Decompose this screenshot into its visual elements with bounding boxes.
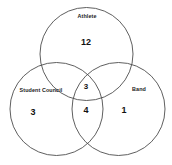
venn-diagram: Athlete Student Council Band 12 3 1 4 3 xyxy=(0,0,172,165)
set-label-athlete: Athlete xyxy=(78,13,97,19)
circle-student-council xyxy=(10,63,103,156)
count-all-three-sets: 3 xyxy=(84,82,88,91)
set-label-band: Band xyxy=(132,86,146,92)
count-band-only: 1 xyxy=(121,105,126,115)
count-student-council-and-band: 4 xyxy=(83,105,88,115)
count-student-council-only: 3 xyxy=(30,107,35,117)
count-athlete-only: 12 xyxy=(81,37,91,47)
set-label-student-council: Student Council xyxy=(20,87,63,93)
